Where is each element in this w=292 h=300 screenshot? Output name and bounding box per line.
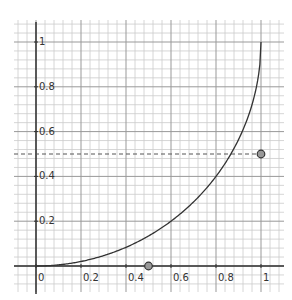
draggable-point[interactable] [257, 150, 265, 158]
x-tick-label: 1 [263, 272, 269, 283]
minor-grid [14, 20, 284, 292]
draggable-point[interactable] [145, 262, 153, 270]
x-tick-label: 0 [38, 272, 44, 283]
y-tick-labels: 0.20.40.60.81 [34, 36, 55, 226]
x-tick-label: 0.6 [173, 272, 189, 283]
axes [14, 22, 284, 294]
function-plot: 00.20.40.60.81 0.20.40.60.81 [0, 0, 292, 300]
x-tick-label: 0.2 [83, 272, 99, 283]
x-tick-label: 0.4 [128, 272, 144, 283]
major-grid [14, 20, 284, 292]
y-tick-label: 0.8 [39, 81, 55, 92]
points [145, 150, 265, 270]
y-tick-label: 0.2 [39, 215, 55, 226]
y-tick-label: 0.6 [39, 126, 55, 137]
y-tick-label: 1 [39, 36, 45, 47]
y-tick-label: 0.4 [39, 170, 55, 181]
x-tick-label: 0.8 [218, 272, 234, 283]
